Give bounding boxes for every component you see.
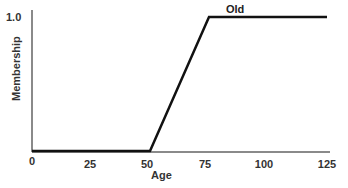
x-tick-75: 75 <box>199 158 211 170</box>
x-tick-100: 100 <box>255 158 273 170</box>
x-axis-title: Age <box>151 169 172 181</box>
x-tick-0: 0 <box>29 155 35 167</box>
membership-chart <box>0 0 348 188</box>
x-tick-125: 125 <box>318 158 336 170</box>
x-tick-25: 25 <box>84 158 96 170</box>
old-membership-line <box>32 17 327 151</box>
y-axis-title: Membership <box>10 36 22 101</box>
y-tick-1.0: 1.0 <box>6 11 21 23</box>
series-label-old: Old <box>226 3 244 15</box>
